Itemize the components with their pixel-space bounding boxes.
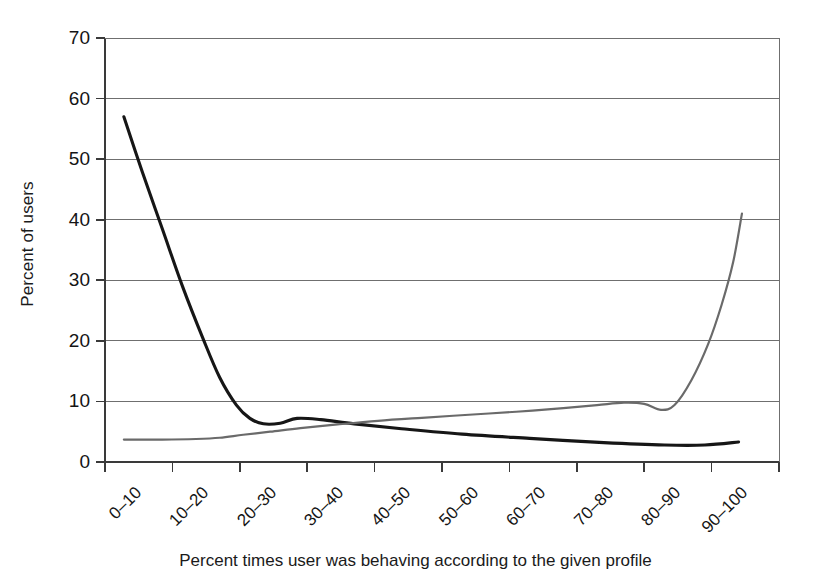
axis-frame	[105, 38, 779, 462]
plot-area	[0, 0, 831, 581]
series-line-rising-curve	[124, 214, 742, 440]
x-ticks	[105, 462, 779, 472]
chart-figure: Percent of users Percent times user was …	[0, 0, 831, 581]
data-series-group	[124, 117, 742, 446]
y-ticks	[96, 38, 105, 462]
series-line-declining-curve	[124, 117, 739, 446]
